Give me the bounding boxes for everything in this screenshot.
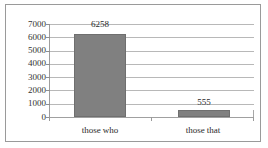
bar-those-who[interactable] [74, 34, 126, 117]
x-tick-middle [151, 117, 152, 121]
y-tick-5000 [46, 51, 50, 52]
y-axis-labels: 7000 6000 5000 4000 3000 2000 1000 0 [8, 24, 46, 117]
y-tick-label-5000: 5000 [12, 46, 46, 55]
y-tick-7000 [46, 24, 50, 25]
bar-value-those-who: 6258 [74, 20, 126, 29]
y-tick-label-3000: 3000 [12, 73, 46, 82]
category-label-those-that: those that [152, 125, 254, 135]
bar-those-that[interactable] [178, 110, 230, 117]
bar-value-those-that: 555 [178, 98, 230, 107]
y-tick-3000 [46, 77, 50, 78]
category-label-those-who: those who [49, 125, 151, 135]
y-tick-label-4000: 4000 [12, 59, 46, 68]
y-tick-6000 [46, 37, 50, 38]
x-tick-left [49, 117, 50, 121]
plot-area: 6258 555 [49, 24, 254, 117]
y-tick-1000 [46, 104, 50, 105]
y-tick-label-0: 0 [12, 113, 46, 122]
y-tick-4000 [46, 64, 50, 65]
y-tick-label-6000: 6000 [12, 33, 46, 42]
y-tick-label-7000: 7000 [12, 20, 46, 29]
y-tick-label-2000: 2000 [12, 86, 46, 95]
x-tick-right [253, 117, 254, 121]
y-tick-label-1000: 1000 [12, 99, 46, 108]
y-tick-2000 [46, 90, 50, 91]
chart-frame: 7000 6000 5000 4000 3000 2000 1000 0 [5, 4, 261, 142]
